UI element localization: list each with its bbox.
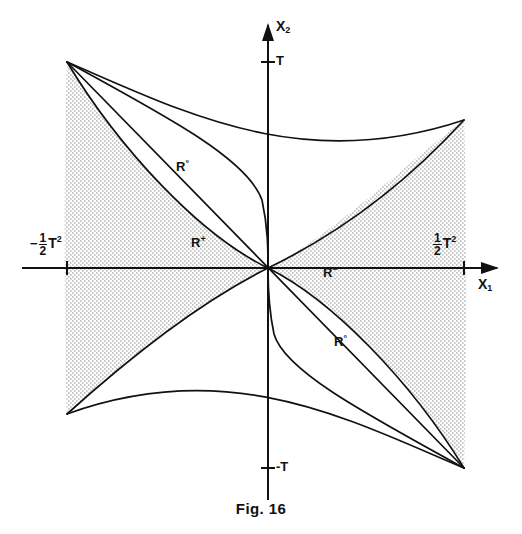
region-superscript: + (200, 234, 205, 244)
minus-sign: − (30, 236, 38, 251)
region-base: R (191, 235, 200, 250)
figure-caption: Fig. 16 (0, 500, 522, 517)
y-axis-label-base: X (276, 18, 285, 34)
t-symbol: T (48, 235, 57, 251)
tick-label-neg-half-t-squared: − 1 2 T2 (30, 232, 62, 257)
t-squared-right: T2 (443, 235, 457, 251)
region-superscript: ° (185, 158, 189, 168)
tick-label-t-positive: T (276, 53, 284, 68)
tick-label-pos-half-t-squared: 1 2 T2 (432, 232, 456, 257)
region-superscript: ° (343, 333, 347, 343)
t-exponent: 2 (451, 234, 456, 244)
figure-plot (0, 0, 522, 534)
region-label-r-minus: R− (323, 264, 338, 280)
t-squared-left: T2 (48, 235, 62, 251)
tick-label-t-negative: -T (276, 459, 288, 474)
region-base: R (334, 334, 343, 349)
t-exponent: 2 (57, 234, 62, 244)
region-superscript: − (332, 264, 337, 274)
t-symbol: T (443, 235, 452, 251)
region-label-r-zero-lower: R° (334, 333, 347, 349)
y-axis-label-subscript: 2 (285, 25, 290, 35)
fraction-one-half-right: 1 2 (433, 232, 442, 257)
region-base: R (323, 265, 332, 280)
x-axis-label-subscript: 1 (487, 283, 492, 293)
x-axis-label: X1 (478, 276, 492, 293)
curve-upper-lobe-outer (67, 62, 464, 141)
y-axis-label: X2 (276, 18, 290, 35)
figure-container: X2 X1 T -T − 1 2 T2 1 2 T2 R° R+ R− R° F… (0, 0, 522, 534)
fraction-one-half-left: 1 2 (39, 232, 48, 257)
shaded-band-r-minus (268, 120, 466, 468)
shaded-band-r-plus (65, 62, 268, 414)
x-axis-label-base: X (478, 276, 487, 292)
fraction-numerator: 1 (39, 232, 48, 244)
region-base: R (176, 159, 185, 174)
curve-lower-lobe-outer (67, 391, 464, 468)
fraction-denominator: 2 (39, 244, 48, 257)
fraction-denominator: 2 (433, 244, 442, 257)
region-label-r-plus: R+ (191, 234, 206, 250)
fraction-numerator: 1 (433, 232, 442, 244)
region-label-r-zero-upper: R° (176, 158, 189, 174)
